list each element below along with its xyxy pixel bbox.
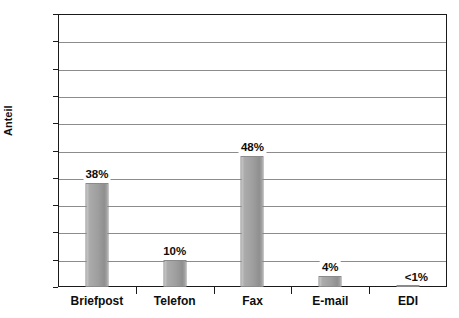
x-tick-mark	[214, 287, 215, 294]
bar	[319, 276, 342, 287]
x-tick-mark	[291, 287, 292, 294]
bar-value-label: 48%	[239, 141, 266, 154]
x-axis-category-label: Briefpost	[58, 294, 136, 308]
bar-group: 48%	[214, 14, 292, 287]
bar-value-label: 4%	[320, 261, 341, 274]
bar-value-label: 38%	[83, 168, 110, 181]
bar-group: <1%	[369, 14, 447, 287]
x-axis-category-label: Fax	[214, 294, 292, 308]
bar	[85, 183, 108, 287]
bar-value-label: <1%	[403, 271, 430, 284]
bar	[241, 156, 264, 287]
x-tick-mark	[369, 287, 370, 294]
bars-layer: 38%10%48%4%<1%	[58, 14, 447, 287]
x-axis-category-label: EDI	[369, 294, 447, 308]
bar-group: 4%	[291, 14, 369, 287]
bar-group: 10%	[136, 14, 214, 287]
bar-group: 38%	[58, 14, 136, 287]
x-axis-category-label: Telefon	[136, 294, 214, 308]
x-tick-mark	[136, 287, 137, 294]
x-axis-labels: BriefpostTelefonFaxE-mailEDI	[58, 294, 447, 314]
bar	[163, 260, 186, 287]
y-axis-title: Anteil	[2, 46, 18, 136]
x-axis-category-label: E-mail	[291, 294, 369, 308]
bar-chart: Anteil 01020304050607080[%]100 38%10%48%…	[0, 0, 459, 318]
bar-value-label: 10%	[161, 245, 188, 258]
